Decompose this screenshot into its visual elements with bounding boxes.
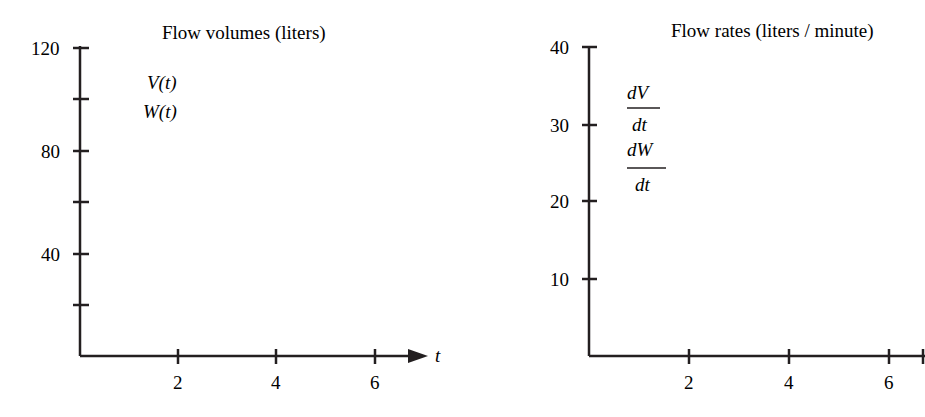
y-tick-label: 10	[550, 269, 569, 290]
x-tick-label: 6	[884, 372, 894, 393]
y-tick-label: 80	[41, 141, 60, 162]
rate-chart-title: Flow rates (liters / minute)	[671, 20, 874, 42]
x-tick-label: 2	[684, 372, 694, 393]
x-tick-label: 2	[173, 372, 183, 393]
legend-v: V(t)	[147, 72, 177, 94]
volume-chart-title: Flow volumes (liters)	[162, 22, 326, 44]
y-tick-label: 20	[550, 191, 569, 212]
x-axis-arrow-icon	[408, 349, 428, 363]
x-tick-label: 4	[784, 372, 794, 393]
x-tick-label: 6	[370, 372, 380, 393]
y-tick-label: 30	[550, 115, 569, 136]
volume-x-axis-label: t	[435, 345, 441, 366]
y-tick-label: 120	[31, 38, 60, 59]
x-tick-label: 4	[271, 372, 281, 393]
y-tick-label: 40	[550, 37, 569, 58]
figure: Flow volumes (liters) t 120 80 40 2 4 6 …	[0, 0, 925, 417]
legend-dv-numerator: dV	[627, 82, 651, 103]
legend-w: W(t)	[143, 101, 177, 123]
legend-dw-denominator: dt	[635, 174, 651, 195]
volume-chart: Flow volumes (liters) t 120 80 40 2 4 6 …	[31, 22, 441, 393]
rate-chart: Flow rates (liters / minute) 40 30 20 10…	[550, 20, 925, 393]
legend-dv-denominator: dt	[632, 114, 648, 135]
y-tick-label: 40	[41, 244, 60, 265]
legend-dw-numerator: dW	[627, 139, 655, 160]
